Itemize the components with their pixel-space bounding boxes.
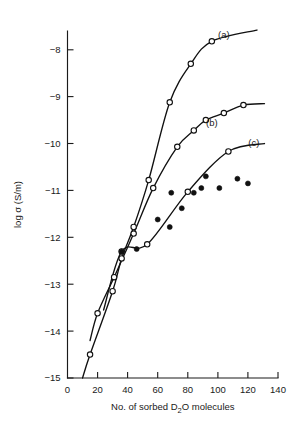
axes-group bbox=[68, 31, 279, 378]
data-point-filled-data-7 bbox=[199, 186, 204, 191]
data-point-filled-data-10 bbox=[235, 176, 240, 181]
x-tick-label-0: 0 bbox=[65, 384, 70, 395]
curve-annotation-c: (c) bbox=[248, 137, 259, 148]
data-curves-group bbox=[83, 30, 265, 378]
data-point-b-4 bbox=[175, 144, 180, 149]
data-point-filled-data-9 bbox=[217, 186, 222, 191]
series-annotations-group: (a)(b)(c) bbox=[206, 29, 259, 148]
data-point-a-4 bbox=[146, 177, 151, 182]
x-tick-label-60: 60 bbox=[152, 384, 163, 395]
data-point-filled-data-11 bbox=[245, 181, 250, 186]
data-point-filled-data-8 bbox=[203, 174, 208, 179]
x-tick-label-20: 20 bbox=[92, 384, 103, 395]
figure-container: −15−14−13−12−11−10−9−8020406080100120140… bbox=[0, 0, 299, 430]
data-point-b-8 bbox=[241, 102, 246, 107]
x-tick-label-80: 80 bbox=[183, 384, 194, 395]
data-point-b-1 bbox=[111, 274, 116, 279]
data-point-a-0 bbox=[87, 352, 92, 357]
x-tick-label-100: 100 bbox=[210, 384, 226, 395]
x-axis-title: No. of sorbed D2O molecules bbox=[111, 401, 235, 415]
data-point-a-6 bbox=[188, 61, 193, 66]
y-tick-label--13: −13 bbox=[44, 279, 60, 290]
data-point-filled-data-4 bbox=[169, 190, 174, 195]
y-axis-title: log σ (S/m) bbox=[12, 181, 23, 228]
data-point-a-7 bbox=[209, 39, 214, 44]
data-point-c-3 bbox=[226, 149, 231, 154]
data-markers-group bbox=[87, 39, 250, 358]
data-point-filled-data-2 bbox=[155, 217, 160, 222]
data-point-a-1 bbox=[110, 289, 115, 294]
curve-c bbox=[104, 144, 265, 310]
chart-canvas: −15−14−13−12−11−10−9−8020406080100120140… bbox=[0, 0, 299, 430]
y-tick-label--14: −14 bbox=[44, 326, 60, 337]
x-tick-label-120: 120 bbox=[240, 384, 256, 395]
axis-tick-labels-group: −15−14−13−12−11−10−9−8020406080100120140 bbox=[44, 44, 286, 395]
curve-annotation-a: (a) bbox=[218, 29, 230, 40]
y-tick-label--12: −12 bbox=[44, 232, 60, 243]
x-tick-label-140: 140 bbox=[270, 384, 286, 395]
data-point-filled-data-0 bbox=[119, 249, 124, 254]
data-point-a-3 bbox=[131, 224, 136, 229]
data-point-b-7 bbox=[221, 110, 226, 115]
data-point-b-2 bbox=[131, 231, 136, 236]
data-point-filled-data-1 bbox=[134, 247, 139, 252]
data-point-b-0 bbox=[95, 311, 100, 316]
y-tick-label--11: −11 bbox=[45, 185, 60, 196]
data-point-a-2 bbox=[119, 256, 124, 261]
data-point-a-5 bbox=[167, 100, 172, 105]
curve-annotation-b: (b) bbox=[206, 117, 218, 128]
x-tick-label-40: 40 bbox=[122, 384, 133, 395]
curve-b bbox=[90, 104, 264, 341]
data-point-c-1 bbox=[144, 242, 149, 247]
data-point-filled-data-5 bbox=[179, 206, 184, 211]
data-point-b-5 bbox=[191, 128, 196, 133]
y-tick-label--8: −8 bbox=[50, 44, 61, 55]
data-point-filled-data-3 bbox=[167, 225, 172, 230]
y-tick-label--10: −10 bbox=[44, 138, 60, 149]
data-point-b-3 bbox=[151, 185, 156, 190]
y-tick-label--9: −9 bbox=[50, 91, 61, 102]
y-tick-label--15: −15 bbox=[44, 372, 60, 383]
data-point-c-2 bbox=[185, 189, 190, 194]
curve-a bbox=[83, 30, 257, 378]
data-point-filled-data-6 bbox=[191, 190, 196, 195]
